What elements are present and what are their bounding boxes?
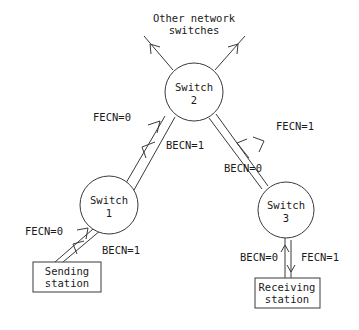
switch-3-label-line1: Switch (267, 199, 305, 211)
edge-label-switch2-to-switch3-fecn: FECN=1 (276, 120, 314, 132)
edge-label-switch2-to-switch1-becn: BECN=1 (166, 139, 204, 151)
edge-switch2-to-switch1-becn (134, 117, 175, 190)
edge-switch3-to-receiving-station-fecn (287, 240, 295, 278)
switch-2-label-line1: Switch (175, 81, 213, 93)
other-network-switches-line1: Other network (153, 12, 236, 24)
other-network-switches-line2: switches (169, 24, 220, 36)
switch-3-label-line2: 3 (283, 212, 289, 224)
node-switch-3[interactable]: Switch 3 (258, 182, 314, 238)
edge-receiving-station-to-switch3-becn (281, 238, 289, 278)
edge-switch2-to-other-networks-right (215, 36, 245, 70)
edge-label-switch1-to-switch2-fecn: FECN=0 (93, 111, 131, 123)
edge-label-switch3-to-receiving-station-fecn: FECN=1 (301, 251, 339, 263)
node-switch-2[interactable]: Switch 2 (165, 63, 223, 121)
edge-label-receiving-station-to-switch3-becn: BECN=0 (240, 251, 278, 263)
edge-label-switch1-to-sending-station-becn: BECN=1 (102, 244, 140, 256)
node-receiving-station[interactable]: Receiving station (255, 278, 320, 308)
edge-switch2-to-other-networks-left (144, 36, 173, 70)
network-diagram-canvas: Switch 2 Switch 1 Switch 3 Sending stati… (0, 0, 359, 330)
edge-label-switch3-to-switch2-becn: BECN=0 (224, 162, 262, 174)
sending-station-label-line2: station (45, 277, 89, 289)
receiving-station-label-line2: station (265, 293, 309, 305)
switch-1-label-line2: 1 (106, 207, 112, 219)
other-network-switches-label: Other network switches (153, 12, 236, 36)
edge-switch1-to-switch2-fecn (126, 116, 165, 183)
switch-1-label-line1: Switch (90, 194, 128, 206)
edge-switch3-to-switch2-becn (209, 118, 262, 189)
network-diagram: Switch 2 Switch 1 Switch 3 Sending stati… (0, 0, 359, 330)
edge-label-sending-station-to-switch1-fecn: FECN=0 (25, 225, 63, 237)
node-sending-station[interactable]: Sending station (33, 262, 101, 292)
sending-station-label-line1: Sending (45, 265, 89, 277)
receiving-station-label-line1: Receiving (259, 281, 316, 293)
switch-2-label-line2: 2 (191, 94, 197, 106)
node-switch-1[interactable]: Switch 1 (80, 176, 138, 234)
edge-switch1-to-sending-station-becn (63, 230, 101, 262)
